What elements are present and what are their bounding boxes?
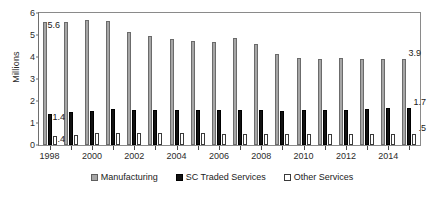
bar-other: [391, 134, 395, 145]
x-axis: 199820002002200420062008201020122014: [38, 146, 421, 166]
bar-group: [103, 13, 124, 145]
bar-manufacturing: [360, 59, 364, 145]
bar-chart: Millions 01234565.61.4.43.91.7.5 1998200…: [0, 0, 444, 197]
x-axis-tick-mark: [177, 146, 178, 150]
bar-group: [39, 13, 60, 145]
bar-other: [243, 134, 247, 145]
bar-group: [145, 13, 166, 145]
x-axis-tick-label: 2004: [167, 151, 187, 161]
plot-area: 01234565.61.4.43.91.7.5: [38, 12, 421, 146]
x-axis-tick-mark: [240, 146, 241, 150]
legend-label-other-services: Other Services: [294, 172, 354, 182]
bar-other: [307, 134, 311, 145]
bar-sc: [344, 110, 348, 145]
y-axis-tick-label: 1: [30, 118, 35, 128]
bar-group: [251, 13, 272, 145]
bar-other: [53, 136, 57, 145]
legend-swatch-manufacturing: [91, 174, 98, 181]
bar-group: [208, 13, 229, 145]
bar-sc: [111, 109, 115, 145]
bar-group: [335, 13, 356, 145]
data-label: 3.9: [408, 48, 421, 58]
bar-sc: [280, 111, 284, 145]
x-axis-tick-mark: [155, 146, 156, 150]
x-axis-tick-mark: [388, 146, 389, 150]
bar-manufacturing: [85, 20, 89, 145]
bar-other: [264, 134, 268, 145]
bar-other: [180, 133, 184, 145]
x-axis-tick-label: 2010: [294, 151, 314, 161]
bar-group: [187, 13, 208, 145]
y-axis-tick-label: 5: [30, 30, 35, 40]
bar-manufacturing: [254, 44, 258, 145]
data-label: 1.4: [53, 112, 66, 122]
bar-manufacturing: [275, 54, 279, 145]
bar-manufacturing: [297, 58, 301, 145]
bar-sc: [90, 111, 94, 145]
y-axis-tick-label: 0: [30, 140, 35, 150]
bar-other: [412, 134, 416, 145]
x-axis-tick-mark: [325, 146, 326, 150]
x-axis-tick-mark: [113, 146, 114, 150]
bar-manufacturing: [148, 36, 152, 145]
bar-group: [124, 13, 145, 145]
legend-label-sc-traded-services: SC Traded Services: [186, 172, 266, 182]
bar-other: [370, 134, 374, 145]
chart-legend: Manufacturing SC Traded Services Other S…: [0, 172, 444, 182]
bar-sc: [259, 110, 263, 145]
bar-other: [116, 133, 120, 145]
y-axis-title: Millions: [11, 27, 25, 107]
x-axis-tick-mark: [71, 146, 72, 150]
y-axis-tick-label: 4: [30, 52, 35, 62]
x-axis-tick-mark: [50, 146, 51, 150]
x-axis-tick-mark: [92, 146, 93, 150]
bar-manufacturing: [339, 58, 343, 145]
bar-manufacturing: [64, 22, 68, 145]
bar-sc: [196, 110, 200, 145]
bar-sc: [302, 110, 306, 145]
data-label: .5: [418, 123, 426, 133]
x-axis-tick-label: 2012: [336, 151, 356, 161]
bar-sc: [132, 110, 136, 145]
bar-group: [60, 13, 81, 145]
bar-group: [272, 13, 293, 145]
x-axis-tick-mark: [198, 146, 199, 150]
bar-group: [314, 13, 335, 145]
bar-manufacturing: [191, 41, 195, 146]
bar-manufacturing: [402, 59, 406, 145]
bar-other: [349, 134, 353, 145]
bar-group: [166, 13, 187, 145]
bar-other: [158, 133, 162, 145]
y-axis-tick-label: 2: [30, 96, 35, 106]
bar-sc: [238, 110, 242, 145]
bar-sc: [217, 110, 221, 145]
bar-manufacturing: [127, 32, 131, 145]
legend-item-sc-traded-services: SC Traded Services: [176, 172, 266, 182]
x-axis-tick-mark: [134, 146, 135, 150]
bar-manufacturing: [318, 59, 322, 145]
x-axis-tick-mark: [282, 146, 283, 150]
bar-manufacturing: [43, 22, 47, 145]
bar-manufacturing: [381, 59, 385, 145]
bar-sc: [407, 108, 411, 145]
bar-other: [328, 134, 332, 145]
bar-other: [95, 133, 99, 145]
data-label: 1.7: [413, 97, 426, 107]
legend-item-other-services: Other Services: [284, 172, 354, 182]
x-axis-tick-mark: [346, 146, 347, 150]
bar-group: [357, 13, 378, 145]
x-axis-tick-mark: [261, 146, 262, 150]
bar-sc: [69, 112, 73, 145]
bar-other: [285, 134, 289, 145]
bar-group: [293, 13, 314, 145]
bar-group: [378, 13, 399, 145]
bar-other: [222, 134, 226, 145]
bar-manufacturing: [233, 38, 237, 145]
plot-inner: 01234565.61.4.43.91.7.5: [39, 13, 420, 145]
legend-swatch-sc-traded-services: [176, 174, 183, 181]
bar-manufacturing: [212, 42, 216, 145]
x-axis-tick-label: 2006: [209, 151, 229, 161]
y-axis-tick-label: 3: [30, 74, 35, 84]
bar-other: [201, 133, 205, 145]
bar-group: [230, 13, 251, 145]
